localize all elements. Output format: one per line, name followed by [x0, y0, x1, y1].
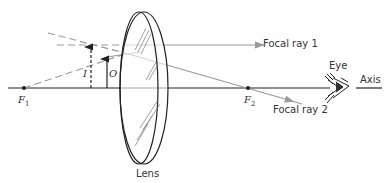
lens-label: Lens — [136, 168, 159, 179]
focal-point-f1 — [22, 86, 26, 90]
image-label: I — [83, 68, 87, 79]
eye-label: Eye — [329, 60, 347, 71]
ray-diagram — [0, 0, 388, 183]
focal-ray-2-virtual — [48, 33, 125, 53]
f2-label: F2 — [244, 94, 255, 108]
axis-label: Axis — [360, 74, 381, 85]
lens — [120, 12, 168, 164]
f2-letter: F — [244, 94, 251, 105]
object-label: O — [109, 68, 117, 79]
focal-ray-1-label: Focal ray 1 — [263, 38, 318, 49]
focal-point-f2 — [246, 86, 250, 90]
f2-subscript: 2 — [251, 100, 255, 108]
f1-subscript: 1 — [25, 100, 29, 108]
f1-letter: F — [18, 94, 25, 105]
f1-label: F1 — [18, 94, 29, 108]
focal-ray-2-label: Focal ray 2 — [273, 104, 328, 115]
